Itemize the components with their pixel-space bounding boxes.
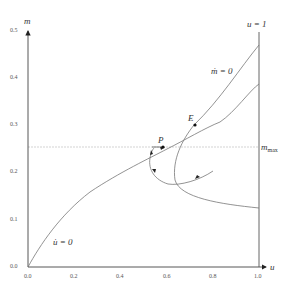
point-E — [193, 123, 196, 126]
phase-plane-diagram: 0.5 0.4 0.3 0.2 0.1 0.0 0.0 0.2 0.4 0.6 … — [0, 0, 295, 289]
x-tick: 0.8 — [209, 273, 217, 279]
x-tick: 1.0 — [254, 273, 262, 279]
x-tick: 0.4 — [116, 273, 124, 279]
u-equals-1-label: u = 1 — [247, 19, 267, 29]
u-dot-zero-label: u̇ = 0 — [53, 237, 73, 247]
y-tick: 0.3 — [10, 121, 18, 127]
m-max-label: mmax — [261, 142, 278, 153]
y-tick: 0.2 — [10, 168, 18, 174]
point-P — [161, 145, 164, 148]
y-tick: 0.5 — [10, 27, 18, 33]
y-tick: 0.0 — [10, 263, 18, 269]
x-tick: 0.2 — [70, 273, 78, 279]
m-max-sub: max — [268, 147, 278, 153]
y-tick: 0.1 — [10, 216, 18, 222]
y-tick: 0.4 — [10, 74, 18, 80]
point-P-label: P — [157, 135, 164, 145]
x-tick: 0.0 — [24, 273, 32, 279]
x-axis-label: u — [270, 262, 275, 272]
x-tick: 0.6 — [163, 273, 171, 279]
y-axis-label: m — [24, 16, 31, 26]
point-E-label: E — [187, 113, 194, 123]
m-dot-zero-label: ṁ = 0 — [211, 66, 233, 76]
